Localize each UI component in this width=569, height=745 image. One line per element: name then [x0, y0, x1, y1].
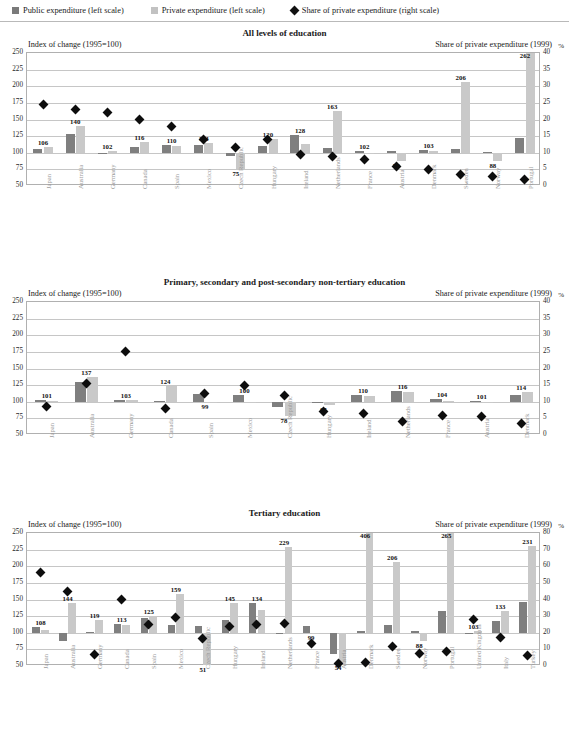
bar-private-expenditure[interactable] [245, 402, 256, 403]
bar-public-expenditure[interactable] [35, 400, 46, 401]
bar-private-expenditure[interactable] [176, 594, 184, 633]
bar-private-expenditure[interactable] [443, 401, 454, 402]
x-axis-category-label: Austria [483, 419, 490, 438]
bar-private-expenditure[interactable] [122, 625, 130, 633]
bar-private-expenditure[interactable] [76, 126, 85, 153]
bar-public-expenditure[interactable] [465, 633, 473, 634]
bar-private-expenditure[interactable] [172, 146, 181, 153]
bar-public-expenditure[interactable] [66, 134, 75, 153]
bar-private-expenditure[interactable] [522, 392, 533, 401]
bar-public-expenditure[interactable] [168, 625, 176, 633]
share-of-private-expenditure-marker[interactable] [167, 121, 177, 131]
bar-private-expenditure[interactable] [493, 153, 502, 161]
bar-private-expenditure[interactable] [528, 546, 536, 633]
share-of-private-expenditure-marker[interactable] [117, 595, 127, 605]
bar-public-expenditure[interactable] [98, 153, 107, 154]
plot-area: 1061401021161101147512012816310279103206… [26, 52, 540, 185]
share-of-private-expenditure-marker[interactable] [358, 408, 368, 418]
share-of-private-expenditure-marker[interactable] [42, 402, 52, 412]
bar-public-expenditure[interactable] [330, 633, 338, 654]
bar-private-expenditure[interactable] [482, 402, 493, 403]
bar-private-expenditure[interactable] [420, 633, 428, 641]
bar-public-expenditure[interactable] [114, 624, 122, 633]
bar-public-expenditure[interactable] [32, 627, 40, 632]
bar-public-expenditure[interactable] [515, 138, 524, 153]
bar-public-expenditure[interactable] [351, 395, 362, 402]
bar-private-expenditure[interactable] [501, 611, 509, 633]
bar-public-expenditure[interactable] [430, 399, 441, 402]
bar-private-expenditure[interactable] [403, 392, 414, 401]
share-of-private-expenditure-marker[interactable] [495, 633, 505, 643]
bar-private-expenditure[interactable] [108, 151, 117, 152]
share-of-private-expenditure-marker[interactable] [134, 115, 144, 125]
bar-public-expenditure[interactable] [312, 402, 323, 403]
bar-public-expenditure[interactable] [194, 145, 203, 153]
bar-private-expenditure[interactable] [333, 111, 342, 153]
y-axis-tick-right: 50 [543, 578, 565, 586]
bar-private-expenditure[interactable] [364, 396, 375, 401]
bar-public-expenditure[interactable] [162, 145, 171, 153]
share-of-private-expenditure-marker[interactable] [102, 108, 112, 118]
bar-public-expenditure[interactable] [483, 152, 492, 153]
bar-public-expenditure[interactable] [303, 626, 311, 633]
bar-public-expenditure[interactable] [387, 151, 396, 153]
bar-public-expenditure[interactable] [276, 633, 284, 634]
bar-private-expenditure[interactable] [397, 153, 406, 161]
bar-private-expenditure[interactable] [166, 386, 177, 402]
bar-value-label: 262 [515, 52, 535, 59]
x-axis-category-label: France [366, 171, 373, 189]
bar-public-expenditure[interactable] [355, 151, 364, 152]
bar-private-expenditure[interactable] [44, 147, 53, 152]
bar-private-expenditure[interactable] [126, 400, 137, 402]
bar-public-expenditure[interactable] [258, 146, 267, 153]
bar-private-expenditure[interactable] [68, 603, 76, 632]
y-axis-tick-right: 20 [543, 115, 565, 123]
x-axis-category-label: Australia [69, 645, 76, 669]
bar-private-expenditure[interactable] [204, 143, 213, 152]
bar-public-expenditure[interactable] [195, 626, 203, 633]
bar-private-expenditure[interactable] [447, 533, 455, 633]
share-of-private-expenditure-marker[interactable] [38, 100, 48, 110]
share-of-private-expenditure-marker[interactable] [160, 403, 170, 413]
bar-public-expenditure[interactable] [492, 621, 500, 632]
bar-private-expenditure[interactable] [47, 401, 58, 402]
bar-public-expenditure[interactable] [130, 147, 139, 152]
bar-public-expenditure[interactable] [391, 391, 402, 402]
x-axis-category-label: Czech Republic [204, 627, 211, 669]
y-axis-tick-right: 30 [543, 81, 565, 89]
bar-private-expenditure[interactable] [95, 620, 103, 633]
bar-private-expenditure[interactable] [393, 562, 401, 632]
bar-public-expenditure[interactable] [357, 631, 365, 633]
bar-public-expenditure[interactable] [233, 395, 244, 402]
bar-public-expenditure[interactable] [451, 149, 460, 152]
share-of-private-expenditure-marker[interactable] [121, 347, 131, 357]
bar-public-expenditure[interactable] [154, 401, 165, 402]
bar-public-expenditure[interactable] [519, 602, 527, 633]
bar-public-expenditure[interactable] [419, 150, 428, 153]
x-axis-category-label: Australia [77, 165, 84, 189]
bar-private-expenditure[interactable] [461, 82, 470, 152]
bar-private-expenditure[interactable] [365, 153, 374, 154]
bar-private-expenditure[interactable] [41, 630, 49, 633]
bar-private-expenditure[interactable] [366, 533, 374, 633]
share-of-private-expenditure-marker[interactable] [36, 568, 46, 578]
bar-public-expenditure[interactable] [384, 625, 392, 632]
share-of-private-expenditure-marker[interactable] [359, 154, 369, 164]
bar-public-expenditure[interactable] [59, 633, 67, 641]
bar-public-expenditure[interactable] [33, 149, 42, 153]
bar-public-expenditure[interactable] [114, 400, 125, 401]
y-axis-tick-left: 200 [1, 81, 23, 89]
bar-public-expenditure[interactable] [510, 395, 521, 402]
x-axis-category-label: Norway [494, 168, 501, 189]
bar-public-expenditure[interactable] [411, 631, 419, 632]
bar-public-expenditure[interactable] [86, 632, 94, 633]
bar-private-expenditure[interactable] [429, 151, 438, 152]
share-of-private-expenditure-marker[interactable] [70, 105, 80, 115]
bar-public-expenditure[interactable] [438, 611, 446, 632]
bar-public-expenditure[interactable] [226, 153, 235, 156]
bar-public-expenditure[interactable] [470, 401, 481, 402]
bar-public-expenditure[interactable] [272, 402, 283, 407]
bar-private-expenditure[interactable] [526, 53, 535, 153]
bar-private-expenditure[interactable] [324, 402, 335, 405]
bar-private-expenditure[interactable] [140, 142, 149, 153]
